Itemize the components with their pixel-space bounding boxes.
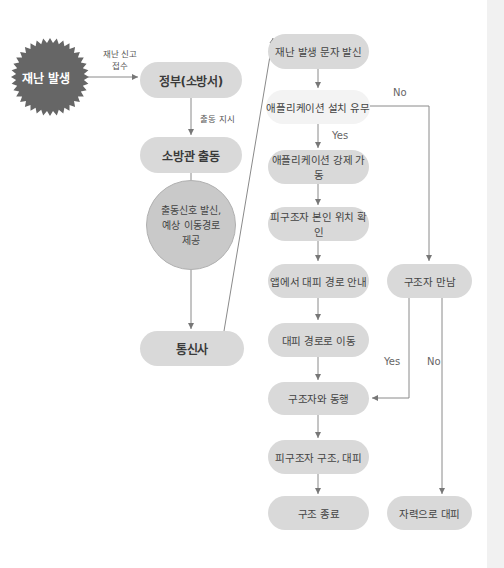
node-government-fire-station: 정부(소방서) xyxy=(140,62,242,98)
node-meet-rescuer: 구조자 만남 xyxy=(387,264,472,298)
node-firefighter-dispatch: 소방관 출동 xyxy=(140,137,242,173)
edge-label-met-yes: Yes xyxy=(384,356,400,368)
node-accompany-rescuer: 구조자와 동행 xyxy=(268,382,369,415)
node-move-evacuation-route: 대피 경로로 이동 xyxy=(268,323,369,357)
start-disaster-label: 재난 발생 xyxy=(22,69,70,86)
edge-label-no-app: No xyxy=(393,87,407,99)
edge-label-report: 재난 신고 접수 xyxy=(98,48,142,72)
node-rescue-complete: 구조 종료 xyxy=(268,496,369,530)
node-self-evacuate: 자력으로 대피 xyxy=(387,496,472,530)
node-disaster-text-alert: 재난 발생 문자 발신 xyxy=(268,34,369,69)
edge-label-yes-app: Yes xyxy=(332,130,348,142)
node-telecom: 통신사 xyxy=(140,331,244,366)
edge-label-dispatch-order: 출동 지시 xyxy=(200,113,235,125)
edge-label-met-no: No xyxy=(427,356,441,368)
node-app-force-launch: 애플리케이션 강제 가동 xyxy=(268,150,369,184)
node-app-evacuation-guide: 앱에서 대피 경로 안내 xyxy=(268,264,369,298)
node-dispatch-signal: 출동신호 발신, 예상 이동경로 제공 xyxy=(146,180,236,270)
node-app-installed-decision: 애플리케이션 설치 유무 xyxy=(266,90,370,124)
node-victim-location-check: 피구조자 본인 위치 확인 xyxy=(268,207,369,241)
node-victim-rescue-evacuate: 피구조자 구조, 대피 xyxy=(268,440,369,474)
